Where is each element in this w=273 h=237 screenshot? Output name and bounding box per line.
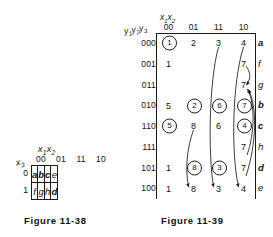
table-row: 1 8 3 4	[156, 178, 256, 199]
fig39-output-column: a f g b c h d e	[258, 33, 272, 199]
fig39-flow-table-cells: 1 2 3 4 1 7 7 5 2 6 7 5 8 6 4	[156, 33, 256, 199]
fig39-cell: 7	[231, 158, 256, 179]
fig39-col-header: 10	[231, 22, 256, 32]
fig39-row-header: 111	[130, 137, 156, 158]
fig39-cell	[181, 75, 206, 96]
fig39-column-headers: 00 01 11 10	[156, 22, 256, 32]
figure-11-38-caption: Figure 11-38	[24, 215, 87, 226]
table-row: 1 2 3 4	[156, 33, 256, 54]
fig39-cell: 2	[181, 33, 206, 54]
table-row: a b c e	[32, 166, 58, 183]
fig39-cell: 1	[156, 158, 181, 179]
fig39-cell	[206, 75, 231, 96]
fig39-cell: 7	[231, 137, 256, 158]
fig39-cell	[156, 75, 181, 96]
fig38-cell: b	[38, 166, 45, 183]
table-row: f g h d	[32, 183, 58, 200]
fig39-cell: 1	[156, 33, 181, 54]
fig39-cell: 4	[231, 178, 256, 199]
fig38-col-header: 00	[31, 154, 51, 164]
fig39-output-label: h	[258, 137, 272, 158]
fig39-cell: 8	[181, 116, 206, 137]
table-row: 5 8 6 4	[156, 116, 256, 137]
fig38-col-header: 10	[91, 154, 111, 164]
fig39-cell	[181, 54, 206, 75]
fig39-cell	[156, 137, 181, 158]
table-row: 7	[156, 137, 256, 158]
fig39-output-label: d	[258, 158, 272, 179]
table-row: 7	[156, 75, 256, 96]
fig38-col-header: 01	[51, 154, 71, 164]
fig39-output-label: g	[258, 75, 272, 96]
fig39-cell: 4	[231, 33, 256, 54]
fig39-output-label: b	[258, 95, 272, 116]
fig38-cell: d	[51, 183, 58, 200]
fig38-cell: e	[51, 166, 58, 183]
fig39-col-header: 11	[206, 22, 231, 32]
fig39-row-header: 100	[130, 178, 156, 199]
fig39-output-label: c	[258, 116, 272, 137]
fig39-output-label: f	[258, 54, 272, 75]
fig39-cell: 7	[231, 75, 256, 96]
fig39-cell: 3	[206, 33, 231, 54]
fig39-row-header: 001	[130, 54, 156, 75]
fig39-cell: 6	[206, 95, 231, 116]
fig38-col-header: 11	[71, 154, 91, 164]
fig39-cell	[206, 137, 231, 158]
fig38-kmap-table: a b c e f g h d	[31, 165, 58, 200]
fig39-cell: 8	[181, 158, 206, 179]
fig39-row-header: 000	[130, 33, 156, 54]
fig39-cell: 6	[206, 116, 231, 137]
fig38-row-headers: 0 1	[20, 165, 31, 199]
fig39-cell: 3	[206, 158, 231, 179]
fig38-column-headers: 00 01 11 10	[31, 154, 111, 164]
table-row: 1 8 3 7	[156, 158, 256, 179]
fig39-cell: 5	[156, 95, 181, 116]
fig39-cell: 5	[156, 116, 181, 137]
table-row: 5 2 6 7	[156, 95, 256, 116]
figure-11-39-caption: Figure 11-39	[161, 215, 224, 226]
fig39-row-header: 110	[130, 116, 156, 137]
fig39-cell: 4	[231, 116, 256, 137]
fig39-cell: 8	[181, 178, 206, 199]
fig38-row-header: 0	[20, 165, 31, 182]
fig39-col-header: 00	[156, 22, 181, 32]
fig39-cell: 7	[231, 95, 256, 116]
fig39-row-headers: 000 001 011 010 110 111 101 100	[130, 33, 156, 199]
fig39-cell: 3	[206, 178, 231, 199]
fig39-col-header: 01	[181, 22, 206, 32]
fig39-output-label: e	[258, 178, 272, 199]
fig38-row-header: 1	[20, 182, 31, 199]
fig39-cell: 2	[181, 95, 206, 116]
fig39-row-header: 101	[130, 158, 156, 179]
fig39-output-label: a	[258, 33, 272, 54]
fig39-row-header: 010	[130, 95, 156, 116]
fig39-cell	[181, 137, 206, 158]
fig39-cell: 1	[156, 178, 181, 199]
fig39-cell: 1	[156, 54, 181, 75]
table-row: 1 7	[156, 54, 256, 75]
fig39-cell	[206, 54, 231, 75]
fig39-row-header: 011	[130, 75, 156, 96]
fig38-cell: g	[38, 183, 45, 200]
fig39-cell: 7	[231, 54, 256, 75]
